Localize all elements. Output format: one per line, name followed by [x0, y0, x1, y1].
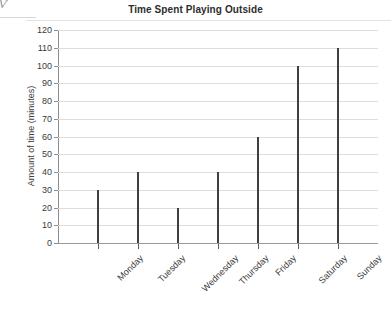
gridline	[58, 119, 378, 120]
y-axis-tick-label: 60	[12, 133, 52, 142]
bar	[337, 48, 339, 243]
x-axis-tick-mark	[98, 244, 99, 249]
gridline	[58, 66, 378, 67]
x-axis-tick-label: Sunday	[355, 253, 384, 282]
gridline	[58, 154, 378, 155]
x-axis-tick-mark	[138, 244, 139, 249]
x-axis-tick-label: Friday	[273, 253, 298, 278]
gridline	[58, 83, 378, 84]
y-axis-tick-label: 20	[12, 204, 52, 213]
x-axis-tick-label: Thursday	[237, 253, 271, 287]
y-axis-tick-label: 10	[12, 221, 52, 230]
bar	[217, 172, 219, 243]
bar	[297, 66, 299, 244]
x-axis-tick-label: Saturday	[317, 253, 350, 286]
x-axis-tick-mark	[338, 244, 339, 249]
plot-area	[58, 30, 378, 243]
x-axis-tick-mark	[258, 244, 259, 249]
y-axis-tick-label: 40	[12, 168, 52, 177]
y-axis-tick-label: 70	[12, 115, 52, 124]
bar	[177, 208, 179, 244]
x-axis-tick-mark	[178, 244, 179, 249]
gridline	[58, 30, 378, 31]
title-divider	[26, 20, 391, 21]
x-axis-tick-label: Wednesday	[200, 253, 241, 294]
x-axis-tick-label: Tuesday	[156, 253, 187, 284]
bar	[137, 172, 139, 243]
y-axis-tick-label: 100	[12, 62, 52, 71]
bar	[97, 190, 99, 243]
y-axis-tick-label: 50	[12, 150, 52, 159]
x-axis-tick-mark	[298, 244, 299, 249]
x-axis-tick-mark	[218, 244, 219, 249]
bar	[257, 137, 259, 244]
gridline	[58, 48, 378, 49]
chart-title: Time Spent Playing Outside	[0, 4, 391, 15]
gridline	[58, 101, 378, 102]
chart-container: V Time Spent Playing Outside Amount of t…	[0, 0, 391, 312]
y-axis-tick-label: 30	[12, 186, 52, 195]
y-axis-tick-label: 80	[12, 97, 52, 106]
x-axis-tick-label: Monday	[115, 253, 145, 283]
gridline	[58, 137, 378, 138]
y-axis-tick-label: 120	[12, 26, 52, 35]
y-axis-tick-label: 90	[12, 79, 52, 88]
y-axis-tick-label: 0	[12, 239, 52, 248]
scan-artifact-edge	[0, 17, 36, 18]
y-axis-tick-label: 110	[12, 44, 52, 53]
